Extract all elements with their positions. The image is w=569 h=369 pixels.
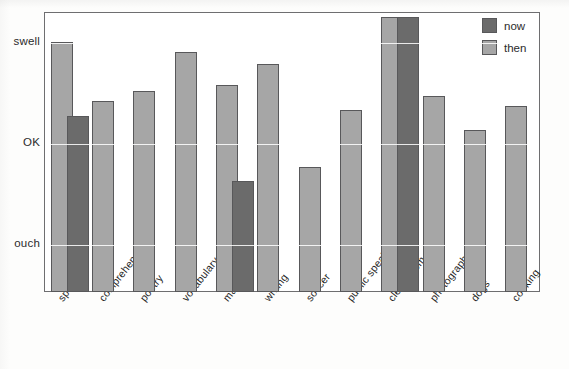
x-axis-labels: spellingcomprehensionpoetryvocabularymat…: [44, 292, 540, 369]
bar-then-photography: [423, 96, 445, 292]
legend-label-now: now: [504, 20, 525, 32]
bar-chart: swell OK ouch spellingcomprehensionpoetr…: [0, 0, 569, 369]
bar-then-cooking: [505, 106, 527, 292]
bar-then-soccer: [299, 167, 321, 292]
bar-now-clean-room: [397, 17, 419, 292]
bar-then-writing: [257, 64, 279, 292]
bar-then-comprehension: [92, 101, 114, 292]
legend-item-now: now: [482, 18, 540, 33]
y-tick-label-ouch: ouch: [14, 237, 40, 249]
y-axis: swell OK ouch: [0, 0, 40, 369]
bar-then-poetry: [133, 91, 155, 292]
bar-now-math: [232, 181, 254, 292]
legend-swatch-now-icon: [482, 18, 497, 33]
bars-layer: [44, 12, 540, 292]
bar-then-vocabulary: [175, 52, 197, 292]
legend-label-then: then: [504, 42, 526, 54]
legend-item-then: then: [482, 40, 540, 55]
bar-then-public-speaking: [340, 110, 362, 292]
bar-now-spelling: [67, 116, 89, 292]
y-tick-label-swell: swell: [13, 35, 40, 47]
bar-then-dogs: [464, 130, 486, 292]
y-tick-label-ok: OK: [23, 136, 40, 148]
legend-swatch-then-icon: [482, 40, 497, 55]
chart-legend: now then: [482, 18, 540, 62]
